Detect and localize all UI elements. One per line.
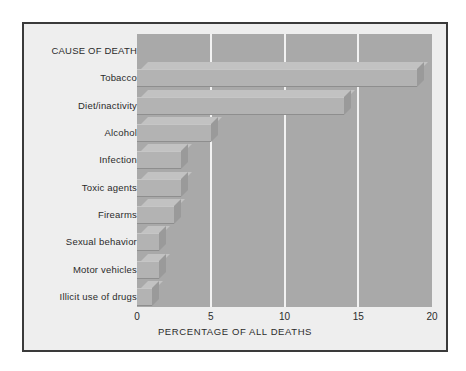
bar-front-face: [137, 151, 181, 169]
bar-top-face: [141, 62, 428, 69]
bar: [137, 117, 218, 142]
figure-canvas: PERCENTAGE OF ALL DEATHS CAUSE OF DEATHT…: [0, 0, 466, 371]
y-axis-category-label: Firearms: [24, 209, 137, 220]
x-tick-label-20: 20: [417, 311, 447, 322]
y-axis-category-label: Toxic agents: [24, 182, 137, 193]
bar: [137, 172, 188, 197]
x-axis-title: PERCENTAGE OF ALL DEATHS: [24, 326, 446, 337]
bar-front-face: [137, 233, 159, 251]
plot-area: [137, 34, 432, 307]
bar: [137, 254, 166, 279]
bar: [137, 62, 424, 87]
bar-front-face: [137, 69, 417, 87]
bar-top-face: [141, 117, 222, 124]
y-axis-category-label: Tobacco: [24, 72, 137, 83]
x-tick-label-5: 5: [196, 311, 226, 322]
chart-frame: PERCENTAGE OF ALL DEATHS CAUSE OF DEATHT…: [22, 22, 448, 352]
y-axis-category-label: Alcohol: [24, 127, 137, 138]
bar-front-face: [137, 206, 174, 224]
bar-front-face: [137, 179, 181, 197]
bar-front-face: [137, 124, 211, 142]
y-axis-category-label: Diet/inactivity: [24, 100, 137, 111]
y-axis-header-label: CAUSE OF DEATH: [24, 45, 137, 56]
x-tick-label-15: 15: [343, 311, 373, 322]
x-tick-label-10: 10: [270, 311, 300, 322]
y-axis-category-label: Motor vehicles: [24, 264, 137, 275]
y-axis-category-label: Infection: [24, 154, 137, 165]
bar-top-face: [141, 90, 355, 97]
bar: [137, 90, 351, 115]
bar-side-face: [417, 62, 424, 87]
chart-paper: PERCENTAGE OF ALL DEATHS CAUSE OF DEATHT…: [24, 24, 446, 350]
bar: [137, 226, 166, 251]
bar-front-face: [137, 288, 152, 306]
bar-front-face: [137, 261, 159, 279]
bar-front-face: [137, 97, 344, 115]
bar: [137, 199, 181, 224]
x-tick-label-0: 0: [122, 311, 152, 322]
bar-side-face: [159, 226, 166, 251]
bar: [137, 144, 188, 169]
bar: [137, 281, 159, 306]
y-axis-category-label: Illicit use of drugs: [24, 291, 137, 302]
bar-side-face: [181, 144, 188, 169]
y-axis-category-label: Sexual behavior: [24, 236, 137, 247]
